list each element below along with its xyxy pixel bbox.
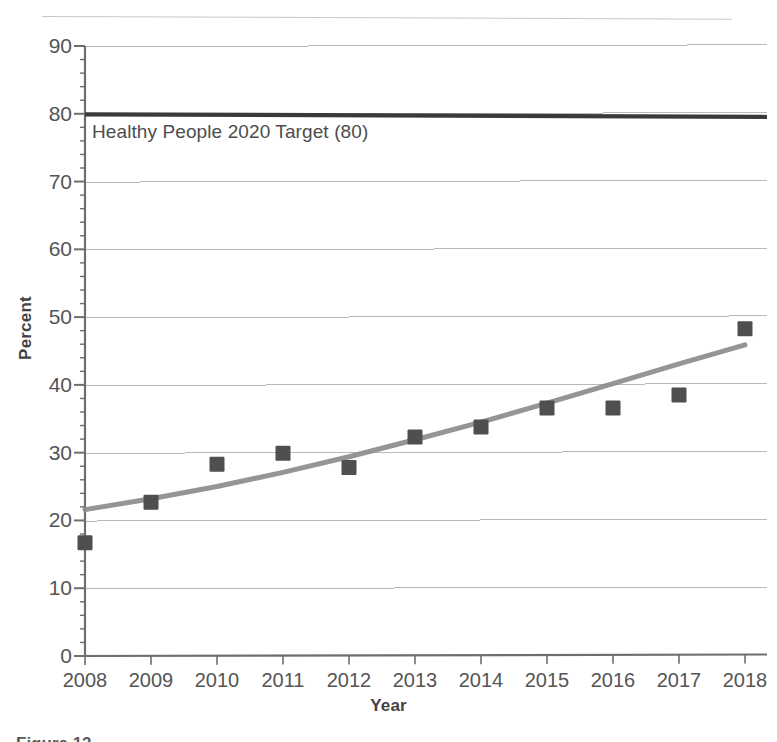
y-tick-label: 30	[12, 442, 72, 463]
figure-container: 0102030405060708090 20082009201020112012…	[0, 0, 777, 742]
y-tick-label: 80	[12, 103, 72, 124]
data-point-markers	[78, 321, 753, 550]
y-axis-title: Percent	[16, 278, 36, 378]
y-tick-label: 70	[12, 171, 72, 192]
target-reference-line	[85, 114, 767, 117]
chart-plot-area	[0, 0, 777, 742]
y-tick-label: 20	[12, 509, 72, 530]
y-tick-label: 60	[12, 238, 72, 259]
trend-line	[85, 345, 745, 510]
y-tick-label: 0	[12, 645, 72, 666]
y-tick-label: 10	[12, 577, 72, 598]
y-axis-ticks	[74, 46, 85, 656]
figure-caption: Figure 12.	[16, 735, 761, 742]
x-axis-title: Year	[0, 696, 777, 716]
target-line-annotation: Healthy People 2020 Target (80)	[92, 121, 368, 143]
y-tick-label: 90	[12, 35, 72, 56]
x-tick-label: 2018	[705, 670, 777, 690]
